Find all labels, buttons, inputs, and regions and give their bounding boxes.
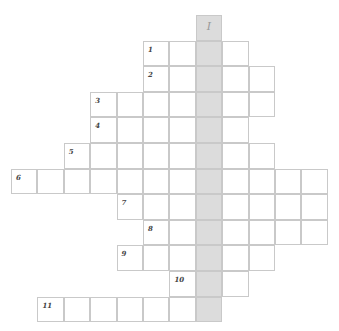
crossword-cell[interactable] xyxy=(90,297,116,323)
crossword-cell[interactable] xyxy=(222,117,248,143)
clue-number: 4 xyxy=(95,121,100,130)
clue-number: 5 xyxy=(69,147,74,156)
highlight-cell[interactable]: I xyxy=(196,15,222,41)
clue-number: 11 xyxy=(42,301,52,310)
crossword-cell[interactable] xyxy=(249,220,275,246)
crossword-cell[interactable] xyxy=(117,143,143,169)
crossword-cell[interactable] xyxy=(222,245,248,271)
highlight-cell[interactable] xyxy=(196,143,222,169)
crossword-cell[interactable] xyxy=(64,297,90,323)
clue-number: 7 xyxy=(122,198,127,207)
crossword-cell[interactable] xyxy=(249,245,275,271)
crossword-cell[interactable] xyxy=(249,66,275,92)
crossword-cell[interactable] xyxy=(143,143,169,169)
crossword-cell[interactable] xyxy=(117,169,143,195)
crossword-cell[interactable] xyxy=(90,143,116,169)
crossword-cell[interactable] xyxy=(90,169,116,195)
highlight-cell[interactable] xyxy=(196,169,222,195)
crossword-cell[interactable] xyxy=(222,169,248,195)
crossword-cell[interactable]: 3 xyxy=(90,92,116,118)
crossword-cell[interactable] xyxy=(222,41,248,67)
crossword-cell[interactable] xyxy=(249,92,275,118)
crossword-cell[interactable] xyxy=(301,169,327,195)
highlight-cell[interactable] xyxy=(196,271,222,297)
crossword-cell[interactable] xyxy=(169,297,195,323)
crossword-cell[interactable] xyxy=(143,117,169,143)
crossword-cell[interactable] xyxy=(117,117,143,143)
crossword-cell[interactable] xyxy=(117,297,143,323)
clue-number: 6 xyxy=(16,173,21,182)
clue-number: 1 xyxy=(148,45,153,54)
crossword-cell[interactable] xyxy=(275,194,301,220)
clue-number: 10 xyxy=(174,275,184,284)
crossword-cell[interactable] xyxy=(143,194,169,220)
clue-number: 8 xyxy=(148,224,153,233)
crossword-cell[interactable] xyxy=(169,66,195,92)
crossword-cell[interactable] xyxy=(143,245,169,271)
highlight-cell[interactable] xyxy=(196,220,222,246)
crossword-cell[interactable] xyxy=(169,169,195,195)
highlight-cell[interactable] xyxy=(196,92,222,118)
crossword-cell[interactable] xyxy=(169,143,195,169)
crossword-cell[interactable]: 1 xyxy=(143,41,169,67)
crossword-cell[interactable] xyxy=(64,169,90,195)
crossword-cell[interactable] xyxy=(275,169,301,195)
crossword-cell[interactable] xyxy=(37,169,63,195)
crossword-cell[interactable] xyxy=(222,220,248,246)
crossword-cell[interactable] xyxy=(117,92,143,118)
crossword-cell[interactable] xyxy=(301,194,327,220)
highlight-cell[interactable] xyxy=(196,245,222,271)
crossword-cell[interactable]: 4 xyxy=(90,117,116,143)
crossword-cell[interactable] xyxy=(222,66,248,92)
crossword-cell[interactable]: 8 xyxy=(143,220,169,246)
crossword-cell[interactable] xyxy=(143,169,169,195)
crossword-cell[interactable]: 9 xyxy=(117,245,143,271)
highlight-cell[interactable] xyxy=(196,297,222,323)
highlight-cell[interactable] xyxy=(196,117,222,143)
crossword-cell[interactable] xyxy=(169,194,195,220)
crossword-cell[interactable] xyxy=(222,194,248,220)
highlight-cell[interactable] xyxy=(196,41,222,67)
crossword-cell[interactable] xyxy=(143,92,169,118)
crossword-cell[interactable] xyxy=(275,220,301,246)
highlight-column-label: I xyxy=(197,20,221,33)
crossword-cell[interactable] xyxy=(169,117,195,143)
crossword-cell[interactable]: 11 xyxy=(37,297,63,323)
crossword-cell[interactable] xyxy=(222,143,248,169)
crossword-grid: I1234567891011 xyxy=(0,0,339,331)
clue-number: 9 xyxy=(122,249,127,258)
crossword-cell[interactable] xyxy=(169,41,195,67)
crossword-cell[interactable] xyxy=(222,271,248,297)
crossword-cell[interactable] xyxy=(222,92,248,118)
highlight-cell[interactable] xyxy=(196,66,222,92)
crossword-cell[interactable] xyxy=(249,194,275,220)
crossword-cell[interactable] xyxy=(169,220,195,246)
clue-number: 3 xyxy=(95,96,100,105)
crossword-cell[interactable] xyxy=(169,92,195,118)
highlight-cell[interactable] xyxy=(196,194,222,220)
crossword-cell[interactable]: 5 xyxy=(64,143,90,169)
clue-number: 2 xyxy=(148,70,153,79)
crossword-cell[interactable]: 10 xyxy=(169,271,195,297)
crossword-cell[interactable] xyxy=(169,245,195,271)
crossword-cell[interactable] xyxy=(301,220,327,246)
crossword-cell[interactable]: 2 xyxy=(143,66,169,92)
crossword-cell[interactable]: 6 xyxy=(11,169,37,195)
crossword-cell[interactable] xyxy=(249,169,275,195)
crossword-cell[interactable] xyxy=(249,143,275,169)
crossword-cell[interactable]: 7 xyxy=(117,194,143,220)
crossword-cell[interactable] xyxy=(143,297,169,323)
